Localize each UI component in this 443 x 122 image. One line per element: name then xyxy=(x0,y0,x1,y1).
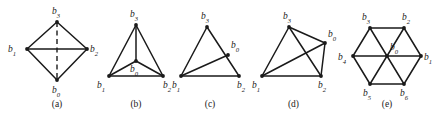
vertex-label-b3: b3 xyxy=(201,11,210,24)
vertex-dot-b1 xyxy=(107,74,111,78)
vertex-dot-b5 xyxy=(368,82,372,86)
edge-b2-b0 xyxy=(57,49,87,80)
vertex-dot-b3 xyxy=(368,26,372,30)
panel-caption-d: (d) xyxy=(274,99,314,109)
diagram-panel-c: b3b1b2b0 xyxy=(172,11,246,93)
edge-b3-b1 xyxy=(181,27,207,76)
vertex-label-b1: b1 xyxy=(252,80,260,93)
vertex-label-b1: b1 xyxy=(172,80,180,93)
vertex-dot-b2 xyxy=(85,47,89,51)
edge-b3-b2 xyxy=(207,27,239,76)
vertex-label-b2: b2 xyxy=(163,80,172,93)
vertex-label-b0: b0 xyxy=(52,85,61,98)
vertex-label-b1: b1 xyxy=(97,80,105,93)
panel-caption-b: (b) xyxy=(116,99,156,109)
vertex-label-b3: b3 xyxy=(362,12,371,25)
vertex-label-b2: b2 xyxy=(318,80,327,93)
vertex-dot-b0 xyxy=(385,54,389,58)
vertex-dot-b3 xyxy=(287,25,291,29)
vertex-dot-b2 xyxy=(402,26,406,30)
vertex-label-b2: b2 xyxy=(90,44,99,57)
vertex-label-b3: b3 xyxy=(52,6,61,19)
vertex-dot-b1 xyxy=(260,74,264,78)
edge-b4-b3 xyxy=(353,28,370,56)
vertex-dot-b2 xyxy=(161,74,165,78)
diagram-panel-e: b3b2b1b6b5b4b0 xyxy=(338,12,432,101)
vertex-label-b4: b4 xyxy=(338,52,347,65)
vertex-dot-b0 xyxy=(323,41,327,45)
vertex-label-b0: b0 xyxy=(390,42,399,55)
vertex-label-b2: b2 xyxy=(237,80,246,93)
vertex-label-b1: b1 xyxy=(424,52,432,65)
vertex-dot-b1 xyxy=(419,54,423,58)
vertex-dot-b3 xyxy=(55,20,59,24)
figure-container: b3b1b2b0b3b1b2b0b3b1b2b0b3b0b1b2b3b2b1b6… xyxy=(0,0,443,122)
vertex-dot-b0 xyxy=(55,78,59,82)
vertex-label-b0: b0 xyxy=(328,29,337,42)
vertex-dot-b4 xyxy=(351,54,355,58)
vertex-label-b3: b3 xyxy=(283,11,292,24)
diagram-panel-b: b3b1b2b0 xyxy=(97,9,172,93)
panel-caption-c: (c) xyxy=(190,99,230,109)
vertex-dot-b1 xyxy=(179,74,183,78)
vertex-dot-b2 xyxy=(319,74,323,78)
edge-b5-b4 xyxy=(353,56,370,84)
diagram-panel-a: b3b1b2b0 xyxy=(8,6,99,98)
edge-b2-b1 xyxy=(404,28,421,56)
vertex-label-b0: b0 xyxy=(231,40,240,53)
vertex-dot-b6 xyxy=(402,82,406,86)
edge-b1-b6 xyxy=(404,56,421,84)
vertex-dot-b0 xyxy=(226,53,230,57)
vertex-label-b1: b1 xyxy=(8,44,16,57)
edge-b1-b0 xyxy=(27,49,57,80)
vertex-label-b3: b3 xyxy=(130,9,139,22)
vertex-label-b2: b2 xyxy=(402,12,411,25)
vertex-dot-b3 xyxy=(134,23,138,27)
vertex-dot-b1 xyxy=(25,47,29,51)
vertex-dot-b3 xyxy=(205,25,209,29)
vertex-dot-b2 xyxy=(237,74,241,78)
panel-caption-e: (e) xyxy=(367,99,407,109)
edge-b1-b0 xyxy=(181,55,228,76)
diagram-panel-d: b3b0b1b2 xyxy=(252,11,337,93)
edge-b3-b1 xyxy=(27,22,57,49)
vertex-dot-b0 xyxy=(134,59,138,63)
edge-b3-b2 xyxy=(57,22,87,49)
edge-b0-b2 xyxy=(321,43,325,76)
panel-caption-a: (a) xyxy=(37,99,77,109)
